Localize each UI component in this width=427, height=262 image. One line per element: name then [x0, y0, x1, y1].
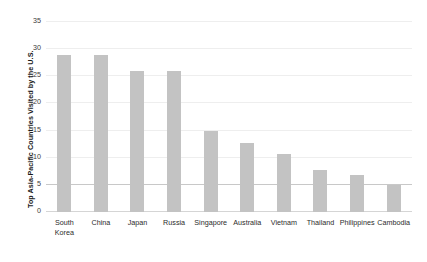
x-tick-label: Philippines [340, 218, 375, 228]
plot-area: 05101520253035 South KoreaChinaJapanRuss… [46, 22, 412, 212]
x-tick-label: South Korea [55, 218, 74, 237]
bars-layer: South KoreaChinaJapanRussiaSingaporeAust… [46, 22, 412, 212]
bar-group: Australia [229, 22, 266, 212]
bar [167, 71, 181, 212]
y-tick-label: 20 [33, 99, 41, 106]
bar [313, 170, 327, 212]
bar [350, 175, 364, 212]
x-tick-label: Thailand [307, 218, 335, 228]
bar-group: Cambodia [375, 22, 412, 212]
bar [387, 185, 401, 212]
bar [57, 55, 71, 212]
y-tick-label: 10 [33, 153, 41, 160]
y-tick-label: 0 [37, 207, 41, 214]
y-tick-label: 15 [33, 126, 41, 133]
bar [277, 154, 291, 212]
bar [204, 131, 218, 212]
x-tick-label: Vietnam [271, 218, 297, 228]
bar-group: Vietnam [266, 22, 303, 212]
bar-group: Russia [156, 22, 193, 212]
y-tick-label: 35 [33, 17, 41, 24]
x-tick-label: Japan [128, 218, 148, 228]
y-tick-label: 5 [37, 180, 41, 187]
bar [240, 143, 254, 212]
x-tick-label: China [92, 218, 111, 228]
bar-group: South Korea [46, 22, 83, 212]
y-tick-label: 30 [33, 45, 41, 52]
x-tick-label: Cambodia [377, 218, 410, 228]
bar [94, 55, 108, 212]
bar-chart: Top Asia-Pacific Countries Visited by th… [0, 0, 427, 262]
bar [130, 71, 144, 212]
bar-group: Japan [119, 22, 156, 212]
y-tick-label: 25 [33, 72, 41, 79]
bar-group: Philippines [339, 22, 376, 212]
bar-group: Singapore [192, 22, 229, 212]
x-tick-label: Singapore [194, 218, 227, 228]
x-tick-label: Russia [163, 218, 185, 228]
x-tick-label: Australia [233, 218, 261, 228]
bar-group: China [83, 22, 120, 212]
bar-group: Thailand [302, 22, 339, 212]
y-axis-title: Top Asia-Pacific Countries Visited by th… [24, 8, 38, 208]
